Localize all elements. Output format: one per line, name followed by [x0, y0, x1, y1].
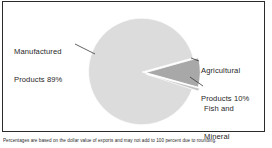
- slice-label-manufactured-line1: Manufactured: [14, 47, 62, 56]
- slice-label-manufactured: Manufactured Products 89%: [14, 28, 62, 103]
- slice-label-fish-line1: Fish and: [204, 104, 248, 113]
- chart-frame: Manufactured Products 89% Agricultural P…: [2, 1, 265, 132]
- pie-chart-figure: Manufactured Products 89% Agricultural P…: [0, 0, 272, 148]
- leader-line-manufactured: [75, 44, 95, 54]
- figure-footnote: Percentages are based on the dollar valu…: [3, 138, 269, 148]
- slice-label-manufactured-line2: Products 89%: [14, 75, 62, 84]
- slice-label-agricultural-line1: Agricultural: [201, 66, 249, 75]
